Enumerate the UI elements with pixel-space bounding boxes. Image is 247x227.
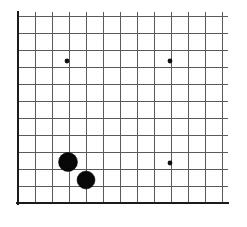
- star-point-upper-right: [168, 59, 173, 64]
- go-board-diagram: [0, 0, 247, 227]
- go-board-canvas: [0, 0, 247, 227]
- black-stone-1: [59, 153, 78, 172]
- star-point-lower-right: [168, 161, 173, 166]
- black-stone-2: [77, 171, 95, 189]
- star-point-upper-left: [65, 59, 70, 64]
- board-background: [0, 0, 247, 227]
